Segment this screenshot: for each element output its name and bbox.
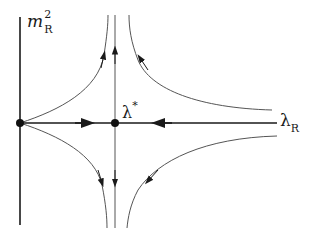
lower-left-flow (20, 123, 107, 228)
y-axis-label-sub: R (44, 23, 52, 36)
fixed-point-label-star: * (132, 99, 138, 112)
lower-right-flow-arrow-icon (148, 170, 158, 181)
upper-left-flow-arrow-icon (101, 55, 104, 68)
y-axis-label: m2R (27, 10, 59, 34)
upper-right-flow-arrow-icon (140, 58, 148, 70)
y-axis-label-sup: 2 (44, 8, 51, 21)
fixed-point-label-base: λ (122, 103, 132, 122)
fixed-point-label: λ* (122, 102, 138, 122)
upper-right-flow (129, 15, 272, 110)
wilson-fisher-fixed-point (111, 119, 119, 127)
x-axis-label: λR (280, 110, 299, 133)
x-axis-label-base: λ (280, 110, 291, 130)
y-axis-label-base: m (27, 11, 43, 31)
gaussian-fixed-point (16, 119, 24, 127)
lower-right-flow (127, 136, 277, 228)
x-axis-label-sub: R (291, 122, 299, 135)
